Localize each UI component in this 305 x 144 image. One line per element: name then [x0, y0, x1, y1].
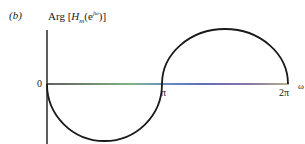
origin-label: 0: [37, 79, 42, 89]
phase-curve-lower: [47, 84, 162, 141]
phase-curve-upper: [162, 29, 288, 84]
phase-plot: [0, 0, 305, 144]
x-tick-pi: π: [161, 88, 166, 98]
x-axis-label: ω: [298, 82, 304, 91]
x-tick-2pi: 2π: [279, 88, 289, 98]
